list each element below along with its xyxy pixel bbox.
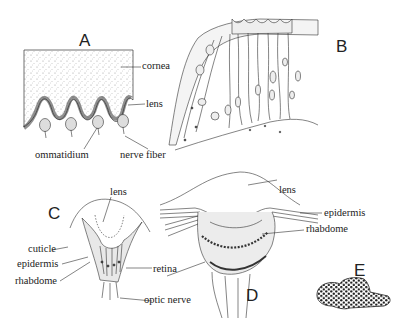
panel-label-d: D xyxy=(246,287,258,304)
panel-c-drawing xyxy=(52,197,152,301)
label-rhabdome-d: rhabdome xyxy=(306,224,348,235)
panel-label-b: B xyxy=(336,38,347,55)
label-cornea: cornea xyxy=(142,61,170,72)
label-epidermis-d: epidermis xyxy=(324,208,365,219)
panel-b-drawing xyxy=(169,19,318,150)
label-optic-nerve: optic nerve xyxy=(144,295,191,306)
label-epidermis-c: epidermis xyxy=(17,259,58,270)
panel-a-drawing xyxy=(24,50,148,149)
label-lens-c: lens xyxy=(110,187,127,198)
label-retina: retina xyxy=(153,264,177,275)
label-lens-a: lens xyxy=(146,99,163,110)
label-lens-d: lens xyxy=(279,185,296,196)
panel-label-e: E xyxy=(354,262,365,279)
panel-label-c: C xyxy=(48,205,60,222)
panel-label-a: A xyxy=(79,32,90,49)
label-rhabdome-c: rhabdome xyxy=(15,276,57,287)
label-ommatidium: ommatidium xyxy=(35,150,89,161)
panel-e-drawing xyxy=(317,278,390,309)
label-nerve-fiber: nerve fiber xyxy=(120,150,166,161)
label-cuticle: cuticle xyxy=(28,244,56,255)
